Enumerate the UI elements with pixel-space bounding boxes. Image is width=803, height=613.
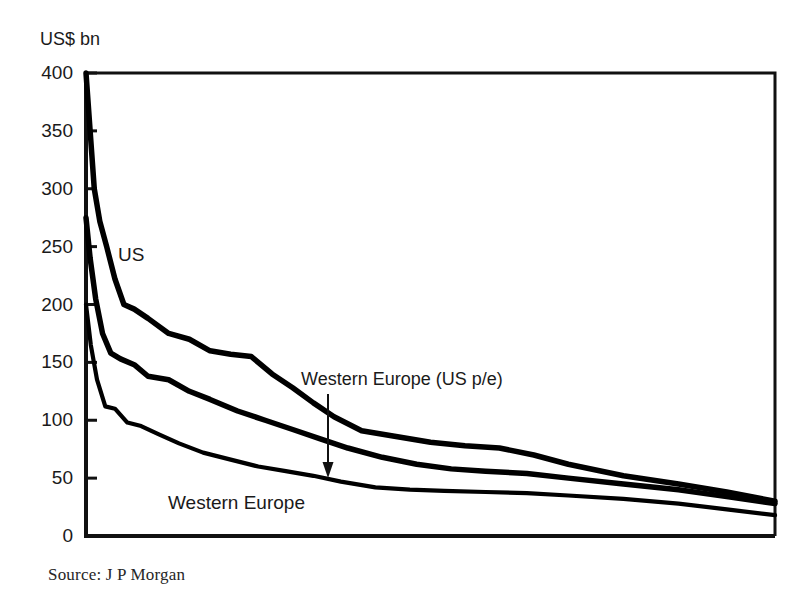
y-tick-label: 250 <box>41 236 73 257</box>
y-tick-label: 200 <box>41 294 73 315</box>
chart-figure: US$ bn 050100150200250300350400 US Weste… <box>0 0 803 613</box>
series-label-us: US <box>118 244 144 265</box>
arrow-head-icon <box>323 462 334 478</box>
series-line-western-europe-us-p-e <box>86 218 775 504</box>
series-lines <box>86 73 775 515</box>
line-chart: US$ bn 050100150200250300350400 US Weste… <box>0 0 803 613</box>
y-tick-label: 350 <box>41 120 73 141</box>
y-tick-label: 100 <box>41 409 73 430</box>
y-tick-label: 400 <box>41 62 73 83</box>
y-tick-label: 50 <box>52 467 73 488</box>
annotation-arrow <box>323 394 334 478</box>
series-line-us <box>86 73 775 501</box>
source-note: Source: J P Morgan <box>48 565 185 585</box>
series-label-western-europe: Western Europe <box>168 492 305 513</box>
y-axis-unit-label: US$ bn <box>40 29 100 49</box>
y-tick-label: 300 <box>41 178 73 199</box>
series-label-western-europe-pe: Western Europe (US p/e) <box>301 369 503 389</box>
y-tick-label: 150 <box>41 351 73 372</box>
y-tick-label: 0 <box>62 525 73 546</box>
